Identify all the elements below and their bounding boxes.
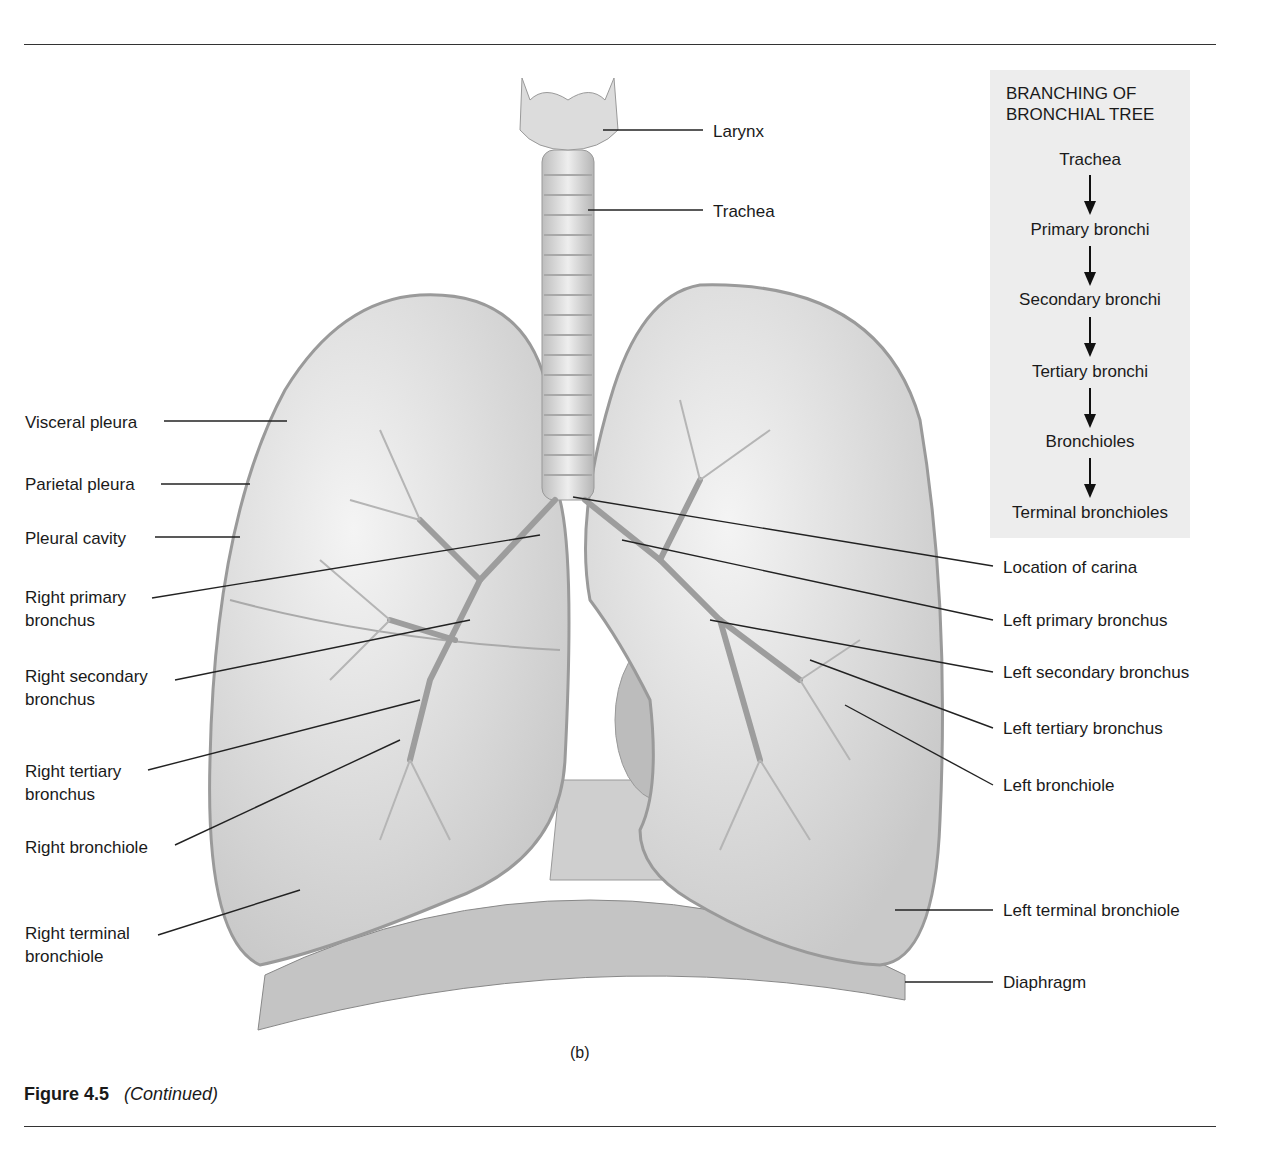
label-line-1: Right tertiary: [25, 760, 121, 783]
flow-step: Tertiary bronchi: [990, 362, 1190, 382]
label-right-terminal-bronchiole: Right terminal bronchiole: [25, 922, 130, 968]
label-trachea: Trachea: [713, 200, 775, 223]
down-arrow-icon: [1084, 175, 1096, 215]
label-line-2: bronchus: [25, 783, 121, 806]
label-right-secondary-bronchus: Right secondary bronchus: [25, 665, 148, 711]
flow-step: Trachea: [990, 150, 1190, 170]
label-visceral-pleura: Visceral pleura: [25, 411, 137, 434]
flow-step: Bronchioles: [990, 432, 1190, 452]
label-right-bronchiole: Right bronchiole: [25, 836, 148, 859]
down-arrow-icon: [1084, 458, 1096, 498]
label-left-tertiary-bronchus: Left tertiary bronchus: [1003, 717, 1163, 740]
down-arrow-icon: [1084, 317, 1096, 357]
label-line-1: Right terminal: [25, 922, 130, 945]
down-arrow-icon: [1084, 388, 1096, 428]
flow-step: Primary bronchi: [990, 220, 1190, 240]
flow-box-title: BRANCHING OF BRONCHIAL TREE: [1006, 83, 1154, 125]
label-parietal-pleura: Parietal pleura: [25, 473, 135, 496]
label-pleural-cavity: Pleural cavity: [25, 527, 126, 550]
label-line-1: Right secondary: [25, 665, 148, 688]
label-right-tertiary-bronchus: Right tertiary bronchus: [25, 760, 121, 806]
down-arrow-icon: [1084, 246, 1096, 286]
label-line-2: bronchiole: [25, 945, 130, 968]
label-left-terminal-bronchiole: Left terminal bronchiole: [1003, 899, 1180, 922]
panel-label: (b): [570, 1044, 590, 1062]
label-line-1: Right primary: [25, 586, 126, 609]
flow-step: Secondary bronchi: [990, 290, 1190, 310]
label-right-primary-bronchus: Right primary bronchus: [25, 586, 126, 632]
label-left-secondary-bronchus: Left secondary bronchus: [1003, 661, 1189, 684]
flow-box-title-line-2: BRONCHIAL TREE: [1006, 104, 1154, 125]
label-left-primary-bronchus: Left primary bronchus: [1003, 609, 1167, 632]
label-left-bronchiole: Left bronchiole: [1003, 774, 1115, 797]
figure-caption: Figure 4.5 (Continued): [24, 1084, 218, 1105]
flow-box-title-line-1: BRANCHING OF: [1006, 83, 1154, 104]
label-line-2: bronchus: [25, 688, 148, 711]
figure-caption-text: (Continued): [124, 1084, 218, 1104]
label-larynx: Larynx: [713, 120, 764, 143]
figure-number: Figure 4.5: [24, 1084, 109, 1104]
label-carina: Location of carina: [1003, 556, 1137, 579]
branching-flow-box: BRANCHING OF BRONCHIAL TREE Trachea Prim…: [990, 70, 1190, 538]
label-diaphragm: Diaphragm: [1003, 971, 1086, 994]
flow-step: Terminal bronchioles: [990, 503, 1190, 523]
label-line-2: bronchus: [25, 609, 126, 632]
